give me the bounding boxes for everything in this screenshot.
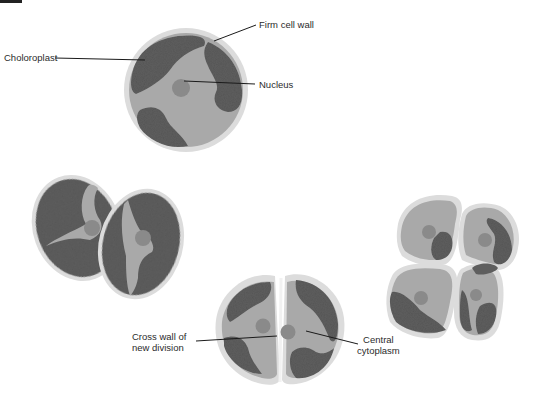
nucleus (422, 225, 436, 239)
single-cell (55, 25, 256, 152)
label-cytoplasm-line1: Central (357, 334, 400, 345)
label-cytoplasm: Central cytoplasm (357, 334, 400, 356)
label-cross-wall: Cross wall of new division (132, 331, 186, 353)
nucleus (172, 79, 190, 97)
label-nucleus: Nucleus (259, 79, 293, 90)
nucleus (84, 220, 100, 236)
label-chloroplast: Choloroplast (4, 52, 57, 63)
label-cell-wall: Firm cell wall (259, 19, 314, 30)
label-cross-wall-line2: new division (132, 342, 186, 353)
two-cell-dividing (196, 274, 358, 385)
nucleus (135, 230, 151, 246)
nucleus (281, 325, 296, 340)
nucleus (256, 319, 271, 334)
nucleus (414, 291, 428, 305)
nucleus (470, 289, 482, 301)
two-cell-tilted (17, 162, 196, 309)
nucleus (478, 233, 492, 247)
leader-line-cell-wall (214, 25, 256, 41)
diagram-svg (0, 0, 535, 404)
diagram-canvas: Choloroplast Firm cell wall Nucleus Cros… (0, 0, 535, 404)
label-cross-wall-line1: Cross wall of (132, 331, 186, 342)
label-cytoplasm-line2: cytoplasm (357, 345, 400, 356)
leader-line-chloroplast (55, 58, 145, 60)
four-cell-cluster (386, 195, 519, 340)
